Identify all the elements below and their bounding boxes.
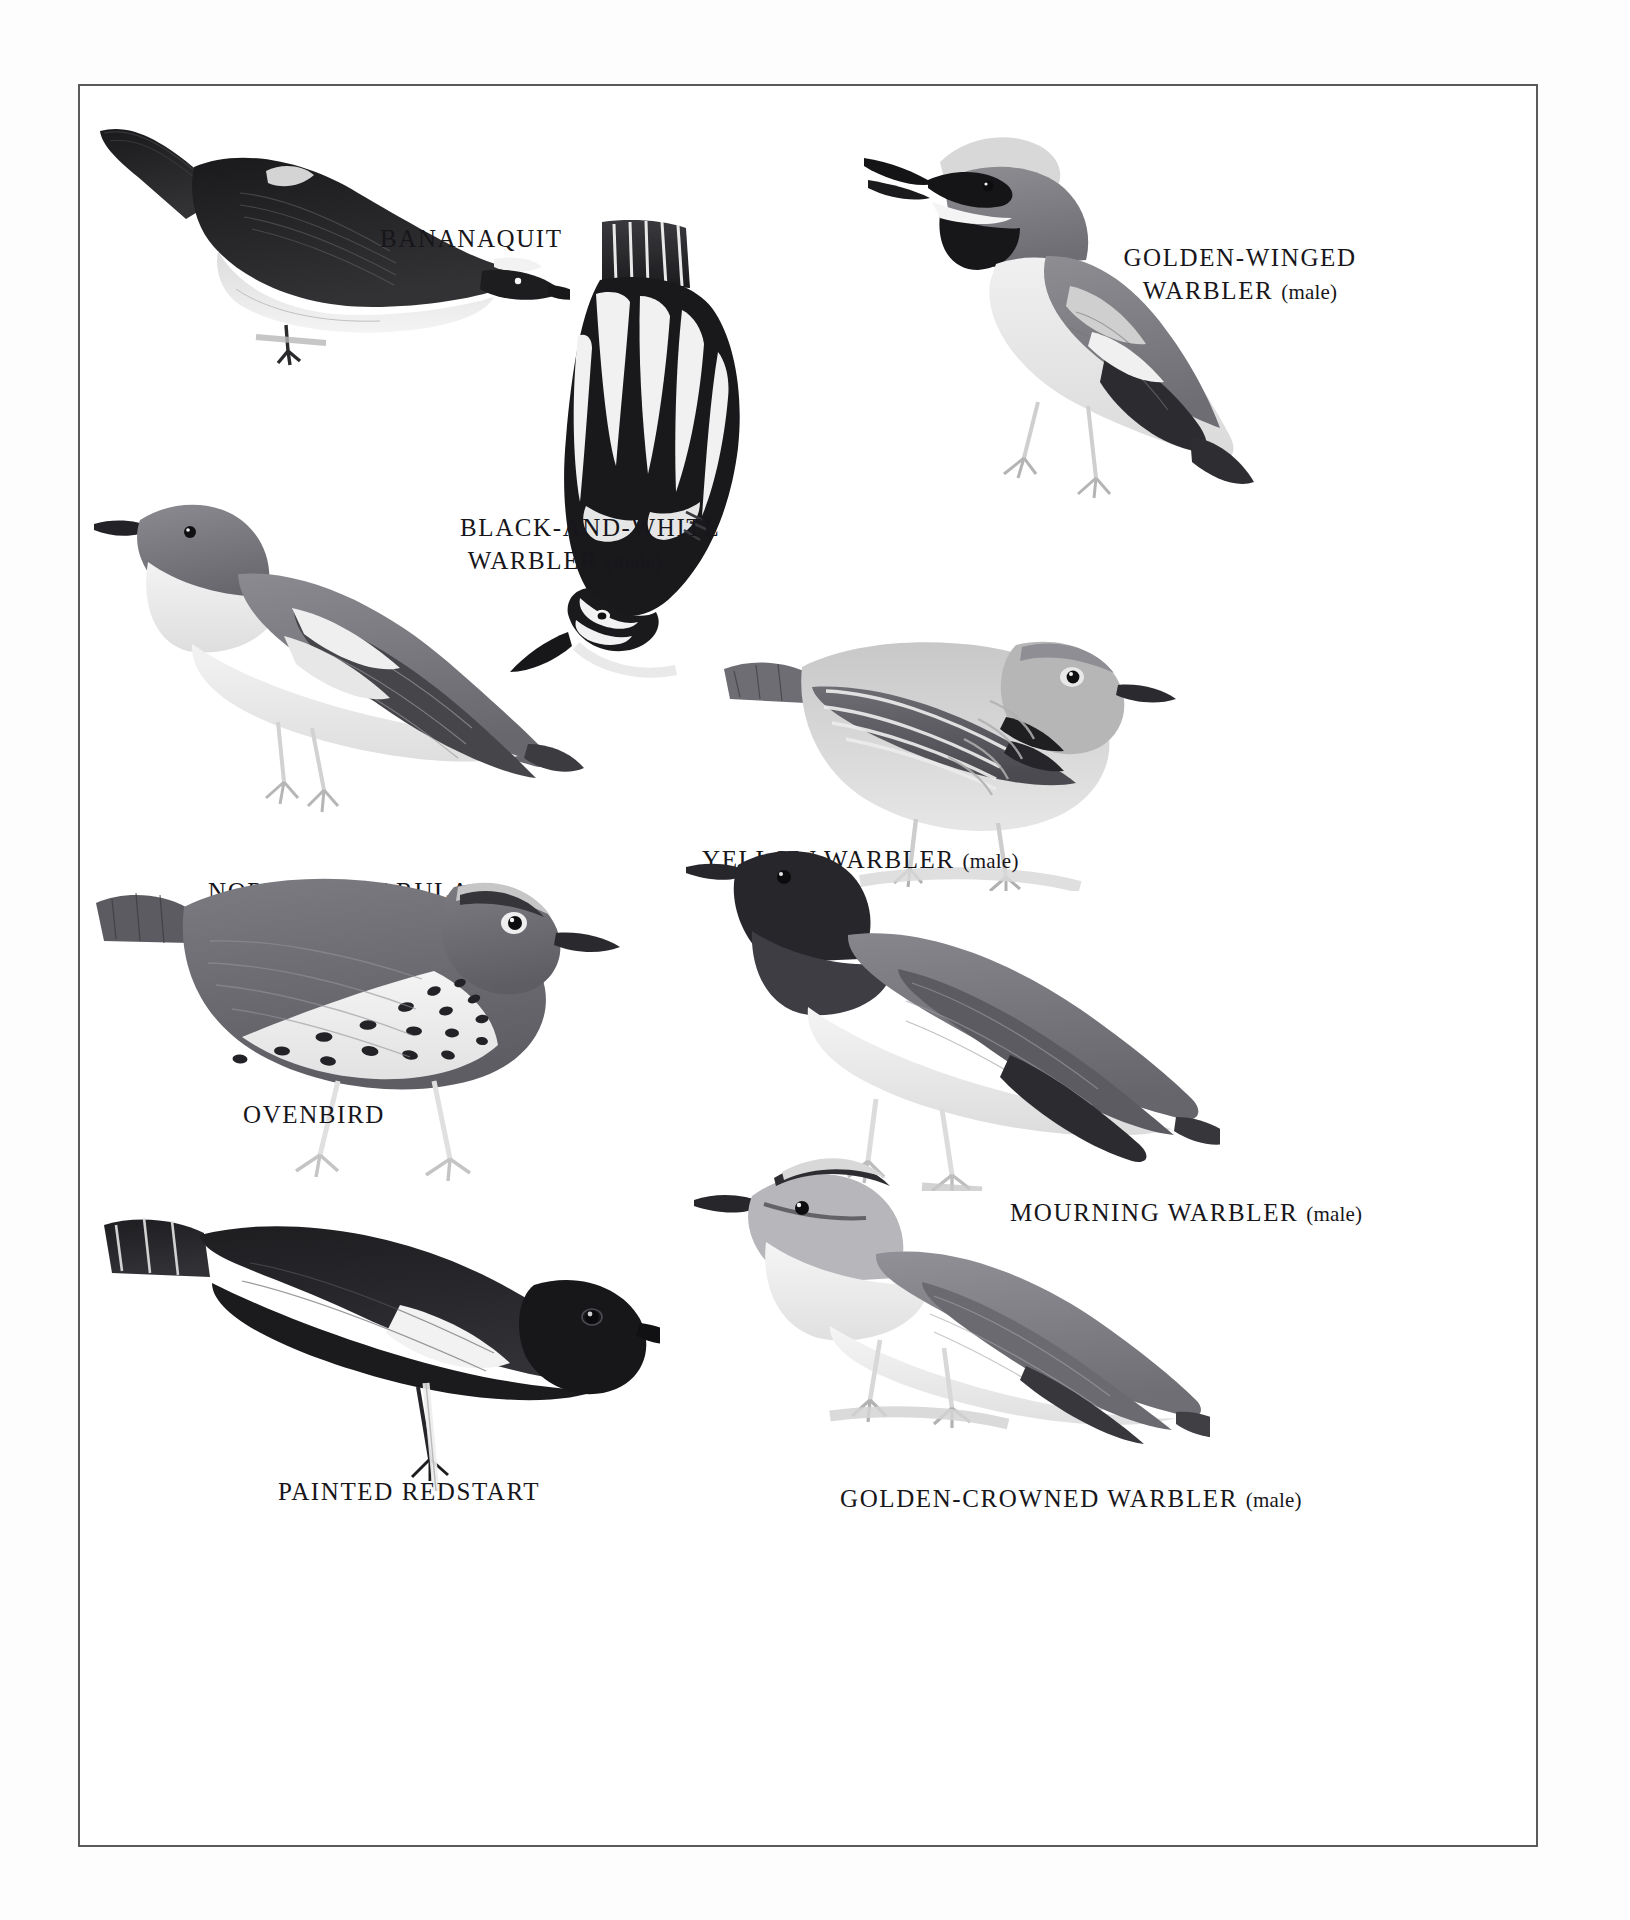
label-black-and-white-sex: (male)	[606, 550, 662, 574]
label-painted-redstart-name: PAINTED REDSTART	[278, 1478, 540, 1505]
label-golden-winged-sex: (male)	[1281, 280, 1337, 304]
label-golden-winged-warbler: GOLDEN-WINGED WARBLER (male)	[1115, 241, 1365, 307]
figure-northern-parula	[88, 476, 588, 846]
illustration-plate: BANANAQUIT	[78, 84, 1538, 1847]
figure-ovenbird	[90, 831, 630, 1191]
figure-golden-crowned-warbler	[690, 1116, 1210, 1446]
label-ovenbird: OVENBIRD	[243, 1098, 385, 1131]
label-golden-crowned-sex: (male)	[1246, 1488, 1302, 1512]
figure-golden-winged-warbler	[820, 106, 1260, 526]
label-painted-redstart: PAINTED REDSTART	[278, 1475, 540, 1508]
label-golden-winged-line2: WARBLER	[1143, 277, 1274, 304]
label-golden-winged-line1: GOLDEN-WINGED	[1123, 244, 1356, 271]
label-golden-crowned-name: GOLDEN-CROWNED WARBLER	[840, 1485, 1238, 1512]
label-golden-crowned-warbler: GOLDEN-CROWNED WARBLER (male)	[840, 1482, 1302, 1515]
label-ovenbird-name: OVENBIRD	[243, 1101, 385, 1128]
label-mourning-warbler-sex: (male)	[1306, 1202, 1362, 1226]
